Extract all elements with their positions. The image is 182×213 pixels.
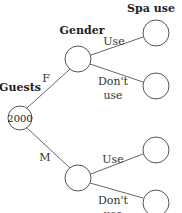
gender-node-m <box>65 165 91 191</box>
branch-label-f: F <box>42 72 50 85</box>
tree-diagram: Spa use Gender Guests 2000 F M Use Don't… <box>0 0 182 213</box>
f-use-label: Use <box>103 35 124 48</box>
header-guests: Guests <box>0 81 41 94</box>
header-gender: Gender <box>60 24 105 37</box>
leaf-node-m-use <box>143 137 169 163</box>
header-spa-use: Spa use <box>127 2 175 15</box>
leaf-node-f-use <box>143 20 169 46</box>
leaf-node-m-dontuse <box>143 190 169 213</box>
branch-label-m: M <box>39 151 50 164</box>
m-dontuse-label-line1: Don't <box>98 194 129 207</box>
gender-node-f <box>65 46 91 72</box>
m-dontuse-label-line2: use <box>103 208 122 213</box>
f-dontuse-label-line1: Don't <box>98 75 129 88</box>
f-dontuse-label-line2: use <box>103 89 122 102</box>
leaf-node-f-dontuse <box>143 73 169 99</box>
root-value: 2000 <box>7 113 32 124</box>
m-use-label: Use <box>102 153 123 166</box>
